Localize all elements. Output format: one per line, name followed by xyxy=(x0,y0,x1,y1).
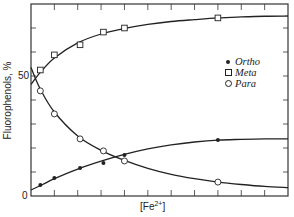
legend-label-para: Para xyxy=(235,78,256,89)
y-tick-label-50: 50 xyxy=(18,70,29,81)
curve-ortho xyxy=(31,139,288,190)
x-axis-label-close: ] xyxy=(162,201,165,212)
legend-label-ortho: Ortho xyxy=(235,56,260,67)
x-axis-label-base: [Fe xyxy=(140,201,154,212)
series-points xyxy=(37,15,221,187)
point-ortho xyxy=(78,166,82,170)
point-para xyxy=(100,148,106,154)
filled-circle-icon xyxy=(224,60,232,64)
x-axis-label: [Fe2+] xyxy=(140,200,165,212)
plot-frame xyxy=(31,4,288,196)
y-axis-label: Fluorophenols, % xyxy=(2,56,13,146)
legend: Ortho Meta Para xyxy=(224,56,260,89)
point-meta xyxy=(77,42,83,48)
point-para xyxy=(51,111,57,117)
legend-item-para: Para xyxy=(224,78,260,89)
point-para xyxy=(77,136,83,142)
open-circle-icon xyxy=(224,80,232,87)
point-para xyxy=(215,179,221,185)
point-meta xyxy=(215,15,221,21)
point-ortho xyxy=(38,183,42,187)
point-meta xyxy=(38,67,44,73)
point-meta xyxy=(101,29,107,35)
y-tick-label-0: 0 xyxy=(22,190,28,201)
series-curves xyxy=(31,16,288,190)
legend-item-meta: Meta xyxy=(224,67,260,78)
point-para xyxy=(37,88,43,94)
legend-item-ortho: Ortho xyxy=(224,56,260,67)
legend-label-meta: Meta xyxy=(235,67,257,78)
point-para xyxy=(121,158,127,164)
point-meta xyxy=(122,25,128,31)
open-square-icon xyxy=(224,69,232,76)
chart-canvas xyxy=(0,0,294,217)
point-ortho xyxy=(216,138,220,142)
point-ortho xyxy=(122,153,126,157)
point-ortho xyxy=(52,176,56,180)
plot-border xyxy=(31,4,288,196)
point-meta xyxy=(52,52,58,58)
point-ortho xyxy=(101,161,105,165)
